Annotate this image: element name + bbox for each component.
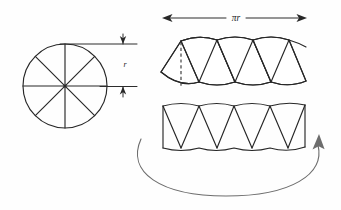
geometry-diagram: r πr: [0, 0, 341, 210]
lower-radius-edge-5: [234, 106, 252, 148]
lower-sector-strip: [163, 103, 305, 150]
rotation-sweep-path: [137, 139, 318, 196]
radius-dimension-group: r: [60, 34, 137, 97]
divided-circle-group: [23, 44, 107, 128]
lower-radius-edge-1: [163, 106, 181, 148]
lower-radius-edge-2: [181, 106, 199, 148]
lower-radius-edge-4: [217, 106, 234, 148]
half-circumference-dimension-group: πr: [162, 13, 307, 23]
half-circumference-label: πr: [232, 13, 241, 23]
lower-radius-edge-7: [270, 106, 288, 148]
rotation-sweep-arrow-group: [137, 134, 324, 196]
lower-strip-bottom-arcs: [163, 147, 305, 151]
circle-center-dot: [63, 84, 66, 87]
radius-label: r: [123, 60, 127, 69]
lower-radius-edge-6: [252, 106, 270, 148]
lower-radius-edge-3: [199, 106, 217, 148]
upper-sector-strip: [161, 37, 306, 86]
lower-radius-edge-8: [288, 105, 305, 148]
figure-root: r πr: [0, 0, 341, 210]
